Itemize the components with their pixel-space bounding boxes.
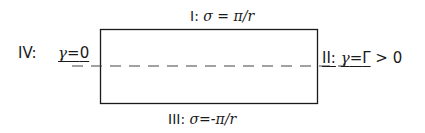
left-value: 0 — [80, 44, 90, 62]
boundary-condition-bottom: σ=-π/r — [190, 111, 237, 127]
right-variable: γ — [341, 49, 350, 67]
boundary-condition-top: σ = π/r — [203, 8, 254, 24]
boundary-id-IV: IV: — [18, 44, 37, 62]
boundary-label-right: II: γ=Γ > 0 — [322, 51, 402, 66]
boundary-id-III: III: — [168, 111, 185, 127]
boundary-id-I: I: — [190, 8, 199, 24]
boundary-label-bottom: III: σ=-π/r — [168, 112, 236, 126]
right-inequality: > 0 — [371, 49, 403, 67]
boundary-id-II: II: — [322, 49, 336, 67]
boundary-label-top: I: σ = π/r — [190, 9, 254, 23]
left-equals: = — [67, 44, 80, 62]
right-value: Γ — [362, 49, 370, 67]
left-variable: γ — [58, 44, 67, 62]
right-equals: = — [350, 49, 363, 67]
boundary-label-left: IV: γ=0 — [18, 46, 89, 61]
